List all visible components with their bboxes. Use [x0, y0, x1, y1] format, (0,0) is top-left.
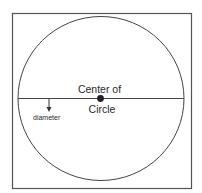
diameter-label: diameter: [33, 114, 61, 121]
center-label-line1: Center of: [78, 83, 121, 95]
circle-diagram: Center of Circle diameter: [0, 0, 202, 193]
center-point: [97, 95, 104, 102]
diameter-arrow: [47, 99, 52, 112]
center-label-line2: Circle: [89, 103, 116, 115]
